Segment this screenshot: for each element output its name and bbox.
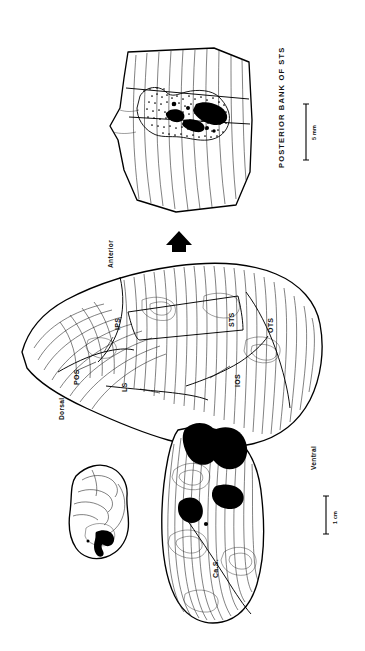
scale-bar-main-map: 1 cm xyxy=(323,496,338,534)
scale-bar-sts-panel: 5 mm xyxy=(303,104,317,160)
whole-brain-inset xyxy=(69,465,128,558)
main-flat-map: IPS POS LS STS IOS OTS Dorsal Anterior V… xyxy=(22,240,322,470)
scale-bar-sts-label: 5 mm xyxy=(311,125,317,140)
sts-panel-title: POSTERIOR BANK OF STS xyxy=(277,47,286,168)
sts-panel-outline xyxy=(110,48,252,212)
sulcus-label-sts: STS xyxy=(228,312,235,327)
label-patch-5 xyxy=(204,522,208,526)
figure-canvas: POSTERIOR BANK OF STS 5 mm xyxy=(0,0,365,651)
orientation-label-ventral: Ventral xyxy=(310,446,317,470)
sulcus-label-ips: IPS xyxy=(114,318,121,330)
sulcus-label-pos: POS xyxy=(73,369,80,385)
label-patch-6 xyxy=(209,455,212,458)
orientation-label-anterior: Anterior xyxy=(107,240,114,268)
orientation-label-dorsal: Dorsal xyxy=(58,398,65,420)
scale-bar-main-label: 1 cm xyxy=(332,511,338,524)
figure-plate: POSTERIOR BANK OF STS 5 mm xyxy=(0,0,365,651)
sulcus-label-ios: IOS xyxy=(234,374,241,387)
posterior-bank-sts-panel: POSTERIOR BANK OF STS 5 mm xyxy=(110,47,317,212)
sulcus-label-cas: Ca.S. xyxy=(212,559,219,578)
magnification-arrow xyxy=(166,231,192,252)
sulcus-label-ots: OTS xyxy=(267,318,274,333)
main-map-outline xyxy=(22,263,322,447)
calcarine-flat-map: Ca.S. xyxy=(162,423,264,623)
sulcus-label-ls: LS xyxy=(121,382,128,392)
brain-inset-label-dot xyxy=(87,540,90,543)
